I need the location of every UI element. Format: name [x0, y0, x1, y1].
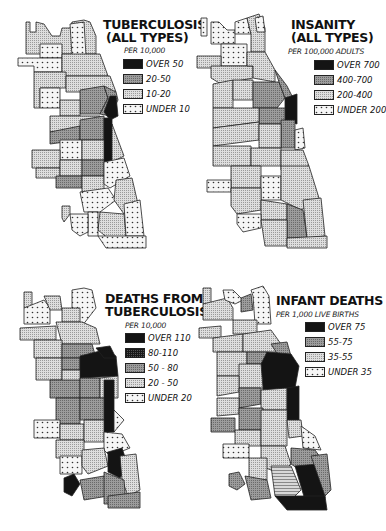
- title-line-1: INFANT DEATHS: [276, 294, 383, 307]
- legend-item: OVER 110: [125, 330, 192, 345]
- legend-label: OVER 110: [148, 333, 191, 343]
- legend-item: 10-20: [123, 86, 190, 101]
- map-unit: PER 10,000: [125, 321, 166, 330]
- swatch-light: [305, 352, 325, 362]
- swatch-black: [305, 322, 325, 332]
- legend-label: 55-75: [328, 337, 353, 347]
- legend-label: 80-110: [148, 348, 178, 358]
- legend-label: 20 - 50: [148, 378, 178, 388]
- legend: OVER 700 400-700 200-400 UNDER 200: [314, 57, 386, 117]
- legend-label: UNDER 20: [148, 393, 192, 403]
- legend-item: 80-110: [125, 345, 192, 360]
- swatch-dark: [314, 75, 334, 85]
- legend: OVER 50 20-50 10-20 UNDER 10: [123, 56, 190, 116]
- legend-item: 35-55: [305, 349, 372, 364]
- legend-label: 400-700: [337, 75, 373, 85]
- legend-item: OVER 700: [314, 57, 386, 72]
- legend-label: UNDER 200: [337, 105, 386, 115]
- map-title: INFANT DEATHS: [276, 294, 383, 307]
- legend: OVER 110 80-110 50 - 80 20 - 50 UNDER 20: [125, 330, 192, 405]
- legend-label: 10-20: [146, 89, 171, 99]
- panel-insanity: INSANITY (ALL TYPES) PER 100,000 ADULTS …: [191, 0, 382, 255]
- legend-label: OVER 700: [337, 60, 380, 70]
- map-unit: PER 10,000: [124, 46, 165, 55]
- swatch-dots: [314, 105, 334, 115]
- panel-infant-deaths: INFANT DEATHS PER 1,000 LIVE BIRTHS OVER…: [191, 260, 382, 515]
- panel-deaths-from-tuberculosis: DEATHS FROM TUBERCULOSIS PER 10,000 OVER…: [0, 260, 191, 515]
- swatch-black: [314, 60, 334, 70]
- swatch-nearblack: [125, 348, 145, 358]
- legend: OVER 75 55-75 35-55 UNDER 35: [305, 319, 372, 379]
- legend-label: UNDER 10: [146, 104, 190, 114]
- legend-item: UNDER 35: [305, 364, 372, 379]
- map-title: INSANITY (ALL TYPES): [291, 18, 373, 44]
- legend-item: UNDER 200: [314, 102, 386, 117]
- swatch-dots: [123, 104, 143, 114]
- swatch-dark: [305, 337, 325, 347]
- legend-label: OVER 75: [328, 322, 365, 332]
- title-line-2: (ALL TYPES): [291, 31, 373, 44]
- swatch-dots: [125, 393, 145, 403]
- panel-tuberculosis: TUBERCULOSIS (ALL TYPES) PER 10,000 OVER…: [0, 0, 191, 255]
- swatch-light: [125, 378, 145, 388]
- legend-item: 20-50: [123, 71, 190, 86]
- legend-label: 35-55: [328, 352, 353, 362]
- legend-label: 200-400: [337, 90, 373, 100]
- swatch-dark: [123, 74, 143, 84]
- legend-item: 200-400: [314, 87, 386, 102]
- legend-item: 20 - 50: [125, 375, 192, 390]
- legend-label: 50 - 80: [148, 363, 178, 373]
- legend-item: 55-75: [305, 334, 372, 349]
- legend-label: UNDER 35: [328, 367, 372, 377]
- swatch-light: [123, 89, 143, 99]
- swatch-black: [125, 333, 145, 343]
- legend-item: UNDER 10: [123, 101, 190, 116]
- legend-item: UNDER 20: [125, 390, 192, 405]
- swatch-black: [123, 59, 143, 69]
- legend-label: 20-50: [146, 74, 171, 84]
- map-unit: PER 100,000 ADULTS: [288, 47, 364, 56]
- swatch-dots: [305, 367, 325, 377]
- legend-label: OVER 50: [146, 59, 183, 69]
- legend-item: OVER 75: [305, 319, 372, 334]
- legend-item: 50 - 80: [125, 360, 192, 375]
- swatch-light: [314, 90, 334, 100]
- swatch-dark: [125, 363, 145, 373]
- legend-item: 400-700: [314, 72, 386, 87]
- legend-item: OVER 50: [123, 56, 190, 71]
- map-unit: PER 1,000 LIVE BIRTHS: [276, 310, 359, 319]
